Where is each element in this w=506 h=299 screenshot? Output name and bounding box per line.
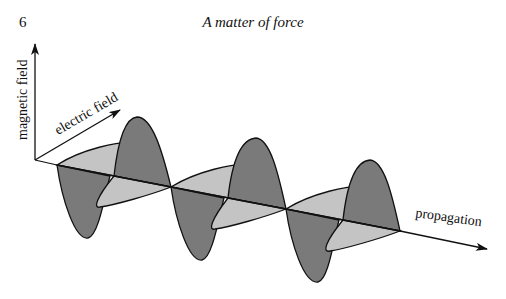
propagation-label: propagation xyxy=(415,205,483,229)
wave-lobes xyxy=(57,117,400,282)
propagation-axis-arrow xyxy=(400,231,487,249)
magnetic-field-label: magnetic field xyxy=(15,60,30,140)
em-wave-figure: magnetic field electric field propagatio… xyxy=(0,0,506,299)
